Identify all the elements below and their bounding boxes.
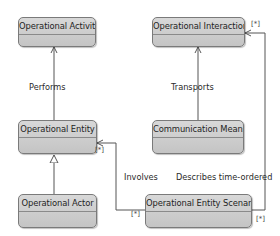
class-name: Operational Entity Scenario [146, 195, 251, 212]
class-name: Operational Interaction [153, 18, 244, 35]
transports-label: Transports [171, 82, 214, 92]
class-name: Communication Means [153, 121, 243, 138]
describes-target-multiplicity: [*] [251, 20, 260, 28]
attribute-compartment [19, 212, 96, 227]
class-name: Operational Entity [19, 121, 96, 138]
class-operational-actor[interactable]: Operational Actor [18, 194, 97, 228]
class-name: Operational Activity [19, 18, 95, 35]
involves-target-multiplicity: [*] [95, 146, 104, 154]
class-operational-interaction[interactable]: Operational Interaction [152, 17, 245, 47]
involves-source-multiplicity: [*] [131, 210, 140, 218]
diagram-canvas: Operational Activity Operational Interac… [0, 0, 280, 236]
attribute-compartment [153, 138, 243, 153]
performs-label: Performs [29, 82, 65, 92]
attribute-compartment [146, 212, 251, 227]
involves-label: Involves [124, 172, 158, 182]
class-operational-activity[interactable]: Operational Activity [18, 17, 96, 47]
class-communication-means[interactable]: Communication Means [152, 120, 244, 154]
attribute-compartment [19, 35, 95, 46]
describes-connector[interactable] [245, 33, 265, 210]
attribute-compartment [19, 138, 96, 153]
class-operational-entity-scenario[interactable]: Operational Entity Scenario [145, 194, 252, 228]
class-operational-entity[interactable]: Operational Entity [18, 120, 97, 154]
describes-source-multiplicity: [*] [256, 215, 265, 223]
class-name: Operational Actor [19, 195, 96, 212]
describes-label: Describes time-ordered [176, 172, 272, 182]
attribute-compartment [153, 35, 244, 46]
